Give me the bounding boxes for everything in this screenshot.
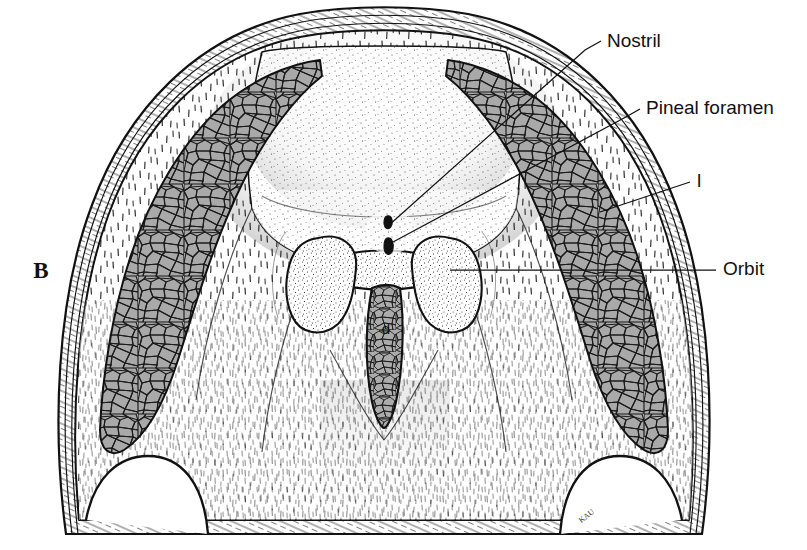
panel-letter-b: B <box>33 258 48 283</box>
pineal-foramen-opening <box>384 238 393 255</box>
dermal-element-label-d: d <box>382 320 390 337</box>
label-lateral-line: l <box>697 170 701 191</box>
label-pineal-foramen: Pineal foramen <box>646 97 774 118</box>
label-nostril: Nostril <box>607 30 661 51</box>
nostril-opening <box>384 216 392 229</box>
label-orbit: Orbit <box>723 258 765 279</box>
skull-illustration: Nostril Pineal foramen l Orbit B d KAU <box>0 0 807 550</box>
figure-canvas: Nostril Pineal foramen l Orbit B d KAU <box>0 0 807 550</box>
